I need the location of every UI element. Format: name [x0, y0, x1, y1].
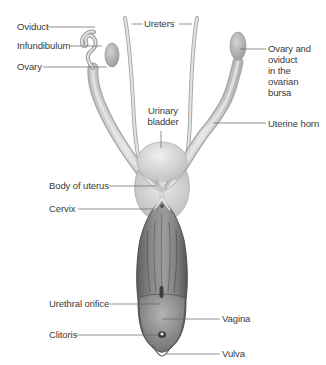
right-ovary-bursa [230, 32, 246, 60]
label-ovary: Ovary [17, 61, 42, 72]
label-vulva: Vulva [222, 348, 245, 359]
label-infundibulum: Infundibulum [17, 40, 70, 51]
reproductive-tract-diagram: Oviduct Infundibulum Ovary Ureters Ovary… [0, 0, 326, 365]
label-uterine-horn: Uterine horn [268, 118, 319, 129]
label-line: in the [268, 65, 324, 76]
label-clitoris: Clitoris [49, 329, 77, 340]
label-line: bladder [145, 116, 181, 127]
label-urinary-bladder: Urinary bladder [145, 105, 181, 127]
left-ovary [82, 32, 119, 68]
label-line: Ovary and [268, 43, 324, 54]
label-body-of-uterus: Body of uterus [49, 180, 109, 191]
vagina [137, 199, 188, 356]
label-cervix: Cervix [49, 203, 75, 214]
label-ovary-and-oviduct-in-ovarian-bursa: Ovary and oviduct in the ovarian bursa [268, 43, 324, 98]
label-urethral-orifice: Urethral orifice [49, 298, 109, 309]
label-line: oviduct [268, 54, 324, 65]
label-line: ovarian [268, 76, 324, 87]
label-oviduct: Oviduct [17, 21, 49, 32]
label-line: Urinary [145, 105, 181, 116]
label-line: bursa [268, 87, 324, 98]
label-ureters: Ureters [144, 18, 174, 29]
label-vagina: Vagina [222, 313, 250, 324]
